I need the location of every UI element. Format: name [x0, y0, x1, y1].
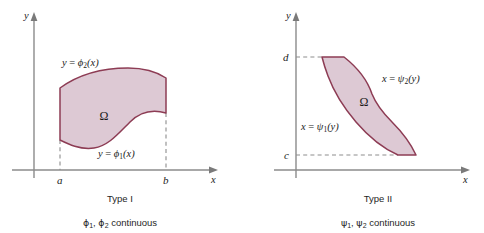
x-axis-type-ii: x	[274, 167, 470, 185]
x-axis-arrowhead	[461, 167, 470, 174]
x-axis-label: x	[462, 174, 468, 185]
omega-symbol-type-i: Ω	[100, 109, 109, 123]
tick-label-d: d	[283, 51, 289, 63]
upper-boundary-label: y = ϕ2(x)	[61, 57, 99, 70]
y-axis-arrowhead	[293, 12, 300, 21]
tick-label-a: a	[57, 174, 63, 186]
x-axis-type-i: x	[12, 167, 218, 185]
panel-subtitle-type-ii: ψ1, ψ2 continuous	[341, 217, 415, 229]
tick-label-b: b	[163, 174, 169, 186]
x-axis-arrowhead	[209, 167, 218, 174]
y-axis-arrowhead	[31, 12, 38, 21]
left-boundary-label: x = ψ1(y)	[300, 121, 339, 134]
panel-title-type-ii: Type II	[364, 193, 393, 204]
tick-label-c: c	[284, 149, 289, 161]
omega-symbol-type-ii: Ω	[360, 95, 369, 109]
x-axis-label: x	[210, 174, 216, 185]
panel-title-type-i: Type I	[107, 193, 133, 204]
figure-container: y x y = ϕ2(x) y = ϕ1(x) Ω a b	[0, 0, 484, 233]
y-axis-label: y	[23, 10, 29, 21]
lower-boundary-label: y = ϕ1(x)	[97, 148, 135, 161]
y-axis-type-i: y	[23, 10, 37, 178]
region-omega-type-i	[60, 68, 166, 148]
y-axis-label: y	[285, 10, 291, 21]
right-boundary-label: x = ψ2(y)	[381, 73, 420, 86]
region-omega-type-ii	[322, 57, 416, 155]
panel-subtitle-type-i: ϕ1, ϕ2 continuous	[83, 217, 157, 229]
panel-type-i: y x y = ϕ2(x) y = ϕ1(x) Ω a b	[12, 10, 218, 229]
panel-type-ii: y x x = ψ2(y) x = ψ1(y) Ω d c	[274, 10, 470, 229]
